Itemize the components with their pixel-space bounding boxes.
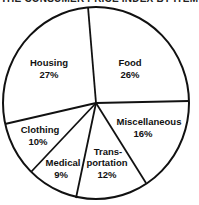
slice-food: Food 26% (118, 57, 141, 80)
slice-label-housing: Housing (30, 57, 68, 68)
slice-label-trans-2: portation (86, 157, 127, 168)
slice-pct-trans: 12% (97, 169, 117, 180)
slice-label-food: Food (118, 57, 141, 68)
slice-label-trans-1: Trans- (94, 146, 123, 157)
slice-label-clothing: Clothing (21, 124, 60, 135)
slice-pct-misc: 16% (133, 128, 153, 139)
pie-chart: Food 26% Housing 27% Miscellaneous 16% C… (0, 0, 199, 205)
slice-pct-food: 26% (120, 69, 140, 80)
slice-label-medical: Medical (46, 157, 81, 168)
slice-pct-medical: 9% (54, 169, 68, 180)
slice-pct-housing: 27% (39, 69, 59, 80)
slice-label-misc: Miscellaneous (117, 116, 182, 127)
slice-pct-clothing: 10% (28, 136, 48, 147)
